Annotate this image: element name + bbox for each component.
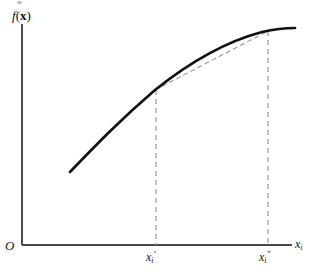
y-axis-label-close-paren: ) (26, 8, 30, 23)
x-axis-label-subscript: i (300, 243, 302, 252)
y-axis-label: f(x) (12, 9, 31, 22)
function-curve (70, 28, 295, 172)
secant-chord-line (155, 31, 268, 90)
origin-label: O (5, 239, 14, 252)
tick-label-x-double-prime: xi″ (259, 250, 270, 265)
x-axis-label: xi (295, 238, 303, 252)
tick-2-prime: ″ (267, 249, 271, 259)
figure-container: f(x) O xi xi′ xi″ (0, 0, 313, 272)
tick-label-x-prime: xi′ (146, 250, 156, 265)
tick-1-prime: ′ (154, 249, 156, 259)
plot-canvas (0, 0, 313, 272)
